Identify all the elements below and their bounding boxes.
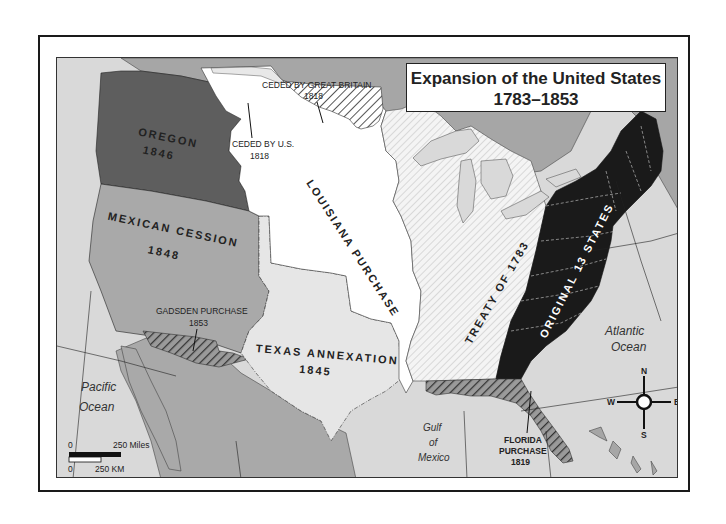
label-florida-year: 1819 [511, 457, 530, 467]
label-pacific-2: Ocean [79, 400, 115, 414]
label-gadsden-year: 1853 [189, 318, 208, 328]
scale-km-zero: 0 [68, 464, 73, 474]
label-florida-2: PURCHASE [499, 446, 547, 456]
label-florida-1: FLORIDA [504, 435, 542, 445]
label-gulf-3: Mexico [418, 452, 450, 463]
label-atlantic-1: Atlantic [604, 324, 644, 338]
compass-n: N [641, 366, 647, 376]
label-ceded-by-us-year: 1818 [250, 151, 269, 161]
map-subtitle-years: 1783–1853 [407, 89, 665, 110]
map-title: Expansion of the United States [407, 68, 665, 89]
label-gulf-2: of [429, 437, 439, 448]
label-ceded-by-gb: CEDED BY GREAT BRITAIN [262, 80, 371, 90]
scale-miles-zero: 0 [68, 440, 73, 450]
label-pacific-1: Pacific [81, 380, 116, 394]
map-canvas: OREGON 1846 MEXICAN CESSION 1848 GADSDEN… [56, 57, 678, 478]
region-mexican-cession [89, 184, 269, 353]
compass-w: W [607, 397, 616, 407]
label-ceded-by-us: CEDED BY U.S. [232, 139, 294, 149]
map-title-box: Expansion of the United States 1783–1853 [406, 63, 666, 112]
label-gulf-1: Gulf [423, 422, 443, 433]
scale-miles-label: 250 Miles [113, 440, 149, 450]
label-ceded-by-gb-year: 1818 [304, 91, 323, 101]
compass-s: S [641, 430, 647, 440]
scale-km-label: 250 KM [95, 464, 124, 474]
label-gadsden: GADSDEN PURCHASE [156, 306, 248, 316]
label-atlantic-2: Ocean [611, 340, 647, 354]
compass-e: E [674, 397, 678, 407]
